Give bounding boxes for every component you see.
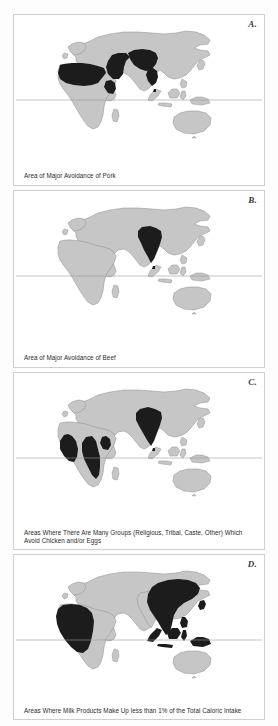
highlight-west-central-africa	[56, 604, 94, 653]
java	[158, 461, 172, 465]
landmass-group-b	[58, 207, 211, 314]
landmass-group-c	[58, 389, 211, 496]
highlight-java-d	[157, 644, 173, 648]
new-guinea	[190, 455, 210, 463]
british-isles	[62, 53, 68, 59]
japan	[197, 236, 205, 246]
sulawesi	[180, 449, 186, 458]
africa-land	[58, 240, 116, 305]
highlight-sri-lanka-a	[153, 89, 156, 92]
borneo	[168, 447, 180, 456]
panel-letter-d: D.	[248, 559, 257, 569]
australia-land	[173, 111, 211, 134]
highlight-sulawesi-d	[181, 630, 187, 641]
philippines	[180, 437, 187, 446]
food-avoidance-map-figure: A.	[0, 0, 278, 726]
new-guinea	[190, 273, 210, 281]
panel-caption-c: Areas Where There Are Many Groups (Relig…	[24, 529, 258, 545]
panel-letter-b: B.	[248, 195, 257, 205]
borneo	[168, 265, 180, 274]
tasmania	[192, 494, 196, 496]
highlight-philippines-d	[180, 617, 188, 628]
philippines	[180, 79, 187, 88]
highlight-sri-lanka-b	[152, 266, 155, 269]
australia-land	[173, 287, 211, 310]
map-svg-d	[14, 561, 264, 679]
madagascar	[112, 649, 119, 662]
madagascar	[112, 109, 119, 122]
sulawesi	[180, 91, 186, 100]
panel-caption-a: Area of Major Avoidance of Pork	[24, 172, 258, 180]
new-guinea	[190, 97, 210, 105]
japan	[197, 418, 205, 428]
java	[158, 103, 172, 107]
world-map-a	[14, 21, 264, 139]
panel-caption-b: Area of Major Avoidance of Beef	[24, 354, 258, 362]
highlight-sri-lanka-c	[152, 448, 155, 451]
world-map-d	[14, 561, 264, 679]
java	[158, 279, 172, 283]
map-panel-c: C.	[13, 372, 265, 550]
world-map-b	[14, 197, 264, 315]
map-svg-b	[14, 197, 264, 315]
panel-letter-c: C.	[248, 377, 257, 387]
sulawesi	[180, 267, 186, 276]
madagascar	[112, 467, 119, 480]
british-isles	[62, 229, 68, 235]
australia-land	[173, 469, 211, 492]
tasmania	[192, 136, 196, 138]
map-panel-b: B.	[13, 190, 265, 368]
tasmania	[192, 676, 196, 678]
highlight-new-guinea-d	[190, 637, 211, 647]
tasmania	[192, 312, 196, 314]
panel-letter-a: A.	[248, 19, 257, 29]
panel-caption-d: Areas Where Milk Products Make Up less t…	[24, 707, 258, 715]
map-svg-c	[14, 379, 264, 497]
japan	[197, 60, 205, 70]
borneo	[168, 89, 180, 98]
map-panel-d: D.	[13, 554, 265, 720]
madagascar	[112, 285, 119, 298]
map-panel-a: A.	[13, 14, 265, 186]
world-map-c	[14, 379, 264, 497]
australia-land	[173, 651, 211, 674]
british-isles	[62, 593, 68, 599]
british-isles	[62, 411, 68, 417]
philippines	[180, 255, 187, 264]
map-svg-a	[14, 21, 264, 139]
highlight-japan-d	[198, 600, 206, 610]
